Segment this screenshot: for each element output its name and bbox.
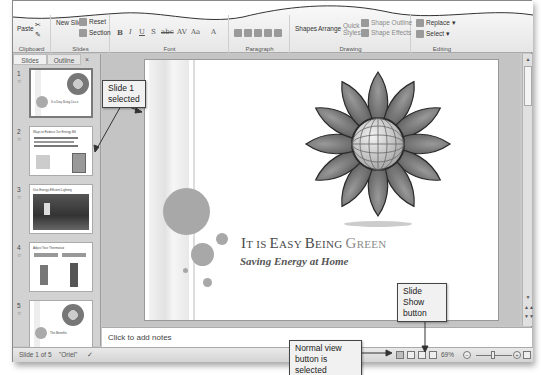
- slide-number: 2: [17, 128, 21, 135]
- editing-group: Replace ▾ Select ▾ Editing: [412, 15, 472, 53]
- thumbnail-1[interactable]: 1 ☆ It is Easy Being Green: [13, 68, 101, 120]
- slide-thumb-5[interactable]: The Benefits: [29, 300, 93, 350]
- transition-icon: ☆: [17, 136, 21, 142]
- slide-thumb-1[interactable]: It is Easy Being Green: [29, 68, 93, 118]
- transition-icon: ☆: [17, 310, 21, 316]
- notes-placeholder[interactable]: Click to add notes: [108, 333, 172, 342]
- tab-slides[interactable]: Slides: [13, 54, 47, 65]
- format-painter-icon[interactable]: ✎: [35, 31, 41, 39]
- cut-icon[interactable]: ✂: [35, 21, 41, 29]
- columns-icon[interactable]: [274, 29, 282, 37]
- align-buttons[interactable]: [234, 29, 284, 37]
- slide-sorter-button[interactable]: [407, 351, 415, 359]
- decorative-circle: [183, 268, 188, 273]
- thumbnail-3[interactable]: 3 ☆ Use Energy-Efficient Lighting: [13, 184, 101, 236]
- align-left-icon[interactable]: [234, 29, 242, 37]
- paste-button[interactable]: Paste: [17, 25, 34, 32]
- thumb-title: Adjust Your Thermostat: [33, 246, 64, 250]
- thumbnail-4[interactable]: 4 ☆ Adjust Your Thermostat: [13, 242, 101, 294]
- scroll-up-icon[interactable]: ▲: [524, 56, 532, 62]
- slide-thumb-3[interactable]: Use Energy-Efficient Lighting: [29, 184, 93, 234]
- scrollbar-thumb[interactable]: [524, 66, 532, 106]
- paragraph-label: Paragraph: [230, 46, 289, 52]
- slide-show-button[interactable]: [429, 351, 437, 359]
- thumbnail-5[interactable]: 5 ☆ The Benefits: [13, 300, 101, 352]
- align-center-icon[interactable]: [244, 29, 252, 37]
- thumbnail-2[interactable]: 2 ☆ Ways to Reduce Our Energy Bill: [13, 126, 101, 178]
- italic-button[interactable]: I: [129, 28, 132, 36]
- slide-number: 4: [17, 244, 21, 251]
- panel-tabs: Slides Outline ×: [13, 54, 100, 65]
- font-group: B I U S abc AV Aa A Font: [111, 15, 229, 53]
- select-button[interactable]: Select ▾: [416, 30, 450, 38]
- new-slide-button[interactable]: New Slide: [56, 19, 76, 26]
- change-case-button[interactable]: Aa: [191, 28, 200, 36]
- slide-thumb-2[interactable]: Ways to Reduce Our Energy Bill: [29, 126, 93, 176]
- slide-title[interactable]: IT IS EASY BEING GREEN: [241, 235, 387, 252]
- thumb-title: Use Energy-Efficient Lighting: [33, 188, 72, 192]
- callout-normal-view: Normal view button is selected: [289, 340, 362, 375]
- decorative-circle: [163, 188, 210, 235]
- theme-name: "Oriel": [59, 351, 77, 358]
- align-right-icon[interactable]: [254, 29, 262, 37]
- reading-view-button[interactable]: [418, 351, 426, 359]
- slides-group: New Slide Reset Section Slides: [52, 15, 110, 53]
- replace-button[interactable]: Replace ▾: [416, 19, 456, 27]
- slide-number: 5: [17, 302, 21, 309]
- decorative-circle: [191, 243, 214, 266]
- thumb-title: The Benefits: [50, 331, 67, 335]
- zoom-level[interactable]: 69%: [441, 351, 454, 358]
- quick-styles-button[interactable]: Quick Styles: [343, 22, 361, 36]
- slide-thumb-4[interactable]: Adjust Your Thermostat: [29, 242, 93, 292]
- decorative-circle: [203, 278, 212, 287]
- slide-subtitle[interactable]: Saving Energy at Home: [240, 255, 348, 267]
- slide-count: Slide 1 of 5: [19, 351, 52, 358]
- justify-icon[interactable]: [264, 29, 272, 37]
- zoom-in-button[interactable]: +: [513, 351, 521, 359]
- shape-outline-button[interactable]: Shape Outline: [361, 19, 412, 27]
- shapes-button[interactable]: Shapes: [295, 25, 317, 32]
- scroll-down-icon[interactable]: ▼: [524, 294, 532, 300]
- vertical-scrollbar[interactable]: ▲ ▼ ▲▲ ▼▼: [522, 54, 532, 326]
- zoom-out-button[interactable]: −: [463, 351, 471, 359]
- underline-button[interactable]: U: [139, 28, 145, 36]
- slide-number: 3: [17, 186, 21, 193]
- slide-editing-pane: IT IS EASY BEING GREEN Saving Energy at …: [102, 54, 520, 326]
- strikethrough-button[interactable]: abc: [161, 28, 174, 36]
- shape-outline-icon: [361, 19, 369, 27]
- previous-slide-icon[interactable]: ▲▲: [524, 304, 532, 310]
- arrange-button[interactable]: Arrange: [318, 25, 341, 32]
- slide-number: 1: [17, 70, 21, 77]
- drawing-group: Shapes Arrange Quick Styles Shape Outlin…: [291, 15, 411, 53]
- transition-icon: ☆: [17, 252, 21, 258]
- editing-label: Editing: [412, 46, 472, 52]
- drawing-label: Drawing: [291, 46, 410, 52]
- next-slide-icon[interactable]: ▼▼: [524, 313, 532, 319]
- spell-check-icon[interactable]: ✓: [87, 351, 93, 359]
- shape-effects-button[interactable]: Shape Effects: [361, 29, 411, 37]
- font-label: Font: [111, 46, 228, 52]
- ribbon: Paste ✂ ✎ Clipboard New Slide Reset Sect…: [13, 1, 533, 53]
- fit-to-window-button[interactable]: [523, 351, 531, 359]
- reset-icon: [79, 18, 87, 26]
- section-button[interactable]: Section: [79, 29, 111, 37]
- callout-slide-show: Slide Show button: [397, 283, 447, 322]
- section-icon: [79, 29, 87, 37]
- thumb-title: It is Easy Being Green: [51, 100, 78, 104]
- tab-outline[interactable]: Outline: [47, 54, 81, 65]
- character-spacing-button[interactable]: AV: [177, 28, 187, 36]
- close-panel-icon[interactable]: ×: [81, 54, 93, 65]
- normal-view-button[interactable]: [396, 351, 404, 359]
- transition-icon: ☆: [17, 78, 21, 84]
- shadow-button[interactable]: S: [151, 28, 156, 36]
- reset-button[interactable]: Reset: [79, 18, 106, 26]
- zoom-slider-knob[interactable]: [491, 351, 495, 359]
- flower-globe-image: [303, 62, 453, 227]
- bold-button[interactable]: B: [117, 28, 123, 37]
- thumb-title: Ways to Reduce Our Energy Bill: [33, 130, 76, 134]
- clipboard-group: Paste ✂ ✎ Clipboard: [13, 15, 51, 53]
- replace-icon: [416, 19, 424, 27]
- current-slide[interactable]: IT IS EASY BEING GREEN Saving Energy at …: [144, 59, 499, 321]
- font-color-button[interactable]: A: [211, 28, 216, 36]
- shape-effects-icon: [361, 29, 369, 37]
